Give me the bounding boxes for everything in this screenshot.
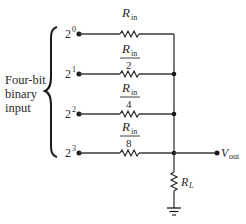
bit2-exp: 2 bbox=[72, 105, 76, 114]
input-row-bit2: 2 2 R in 4 bbox=[65, 80, 174, 121]
bit0-resistor-label: R bbox=[121, 5, 130, 20]
bit3-resistor-divisor: 8 bbox=[126, 137, 132, 149]
bit3-base: 2 bbox=[65, 146, 71, 160]
bit3-resistor-label: R bbox=[121, 119, 130, 134]
group-label-line-3: input bbox=[5, 101, 31, 115]
load-resistor: R L bbox=[171, 172, 194, 208]
junction-dot bbox=[172, 112, 177, 117]
bit2-resistor-icon bbox=[120, 111, 139, 117]
input-row-bit0: 2 0 R in bbox=[65, 5, 174, 41]
load-resistor-label: R bbox=[180, 175, 189, 189]
bit1-resistor-divisor: 2 bbox=[126, 59, 132, 71]
bit2-resistor-divisor: 4 bbox=[126, 98, 132, 110]
curly-brace-icon bbox=[45, 27, 57, 157]
load-resistor-sub: L bbox=[188, 181, 194, 190]
bit1-resistor-sub: in bbox=[131, 49, 137, 58]
group-label-line-1: Four-bit bbox=[5, 73, 46, 87]
bit3-resistor-icon bbox=[120, 150, 139, 156]
ground-icon bbox=[167, 208, 181, 215]
input-row-bit3: 2 3 R in 8 bbox=[65, 119, 174, 160]
group-label: Four-bit binary input bbox=[5, 73, 46, 115]
bit1-resistor-label: R bbox=[121, 41, 130, 56]
junction-dot bbox=[172, 72, 177, 77]
bit0-resistor-icon bbox=[120, 31, 139, 37]
output-terminal: V out bbox=[174, 146, 240, 161]
bit3-resistor-sub: in bbox=[131, 127, 137, 136]
group-label-line-2: binary bbox=[5, 87, 38, 101]
vout-sub: out bbox=[229, 152, 240, 161]
bit2-resistor-sub: in bbox=[131, 88, 137, 97]
bit1-base: 2 bbox=[65, 67, 71, 81]
bit1-exp: 1 bbox=[72, 65, 76, 74]
bit2-resistor-label: R bbox=[121, 80, 130, 95]
vout-terminal-dot[interactable] bbox=[215, 151, 220, 156]
bit3-exp: 3 bbox=[72, 144, 76, 153]
dac-circuit-diagram: Four-bit binary input 2 0 R in 2 1 R in … bbox=[0, 0, 246, 224]
bit0-base: 2 bbox=[65, 27, 71, 41]
bit2-base: 2 bbox=[65, 107, 71, 121]
input-row-bit1: 2 1 R in 2 bbox=[65, 41, 174, 81]
bit0-resistor-sub: in bbox=[131, 13, 137, 22]
load-resistor-icon bbox=[171, 172, 177, 191]
bit1-resistor-icon bbox=[120, 71, 139, 77]
bit0-exp: 0 bbox=[72, 25, 76, 34]
